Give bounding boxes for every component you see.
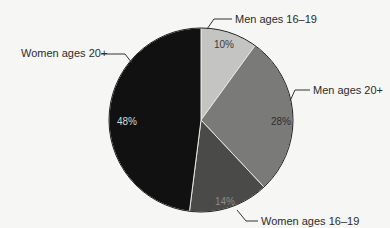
label-women-16-19: Women ages 16–19 (261, 215, 359, 227)
label-women-20plus: Women ages 20+ (21, 47, 107, 59)
pct-women-20plus: 48% (117, 116, 137, 127)
pct-women-16-19: 14% (215, 196, 235, 207)
pct-men-20plus: 28% (271, 116, 291, 127)
label-men-16-19: Men ages 16–19 (235, 13, 317, 25)
leader-women-16-19 (237, 210, 258, 221)
pie-chart: Men ages 16–19 Men ages 20+ Women ages 1… (0, 0, 390, 228)
leader-men-20plus (290, 90, 310, 101)
pct-men-16-19: 10% (214, 39, 234, 50)
label-men-20plus: Men ages 20+ (313, 84, 383, 96)
leader-men-16-19 (207, 19, 232, 29)
